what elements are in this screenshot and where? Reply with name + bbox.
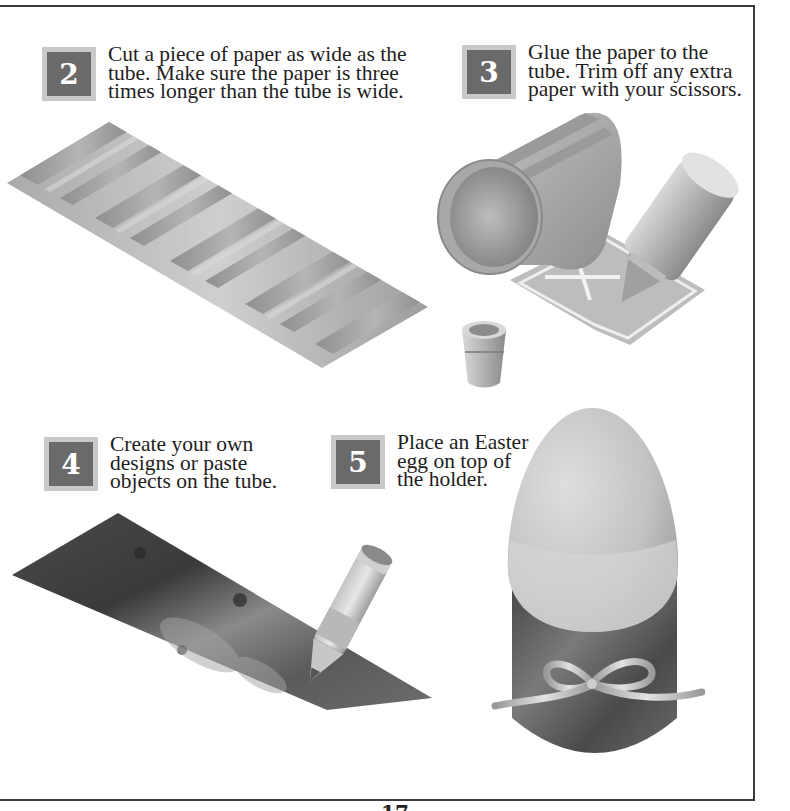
step-instructions: Glue the paper to the tube. Trim off any…: [528, 43, 742, 99]
page-frame-right: [753, 5, 755, 801]
striped-paper-illustration: [0, 110, 440, 380]
step-instructions: Cut a piece of paper as wide as the tube…: [108, 45, 407, 101]
step-number-badge: 3: [462, 45, 516, 99]
step-number-badge: 2: [42, 47, 96, 101]
step-number-badge: 4: [44, 437, 98, 491]
glue-cap: [462, 321, 506, 388]
page-frame-bottom: [0, 799, 755, 801]
tube-glue-illustration: [430, 105, 750, 390]
step-number: 5: [336, 440, 380, 484]
step-3: 3 Glue the paper to the tube. Trim off a…: [462, 45, 742, 99]
step-instructions: Create your own designs or paste objects…: [110, 435, 277, 491]
step-4: 4 Create your own designs or paste objec…: [44, 437, 277, 491]
egg-holder-illustration: [480, 400, 705, 770]
step-number: 4: [49, 442, 93, 486]
step-number: 2: [47, 52, 91, 96]
step-number-badge: 5: [331, 435, 385, 489]
page-number: 17: [370, 803, 420, 811]
step-number: 3: [467, 50, 511, 94]
step-2: 2 Cut a piece of paper as wide as the tu…: [42, 47, 407, 101]
page-frame-top: [0, 5, 755, 7]
decorated-paper: [12, 513, 432, 710]
decorated-paper-illustration: [0, 505, 440, 715]
